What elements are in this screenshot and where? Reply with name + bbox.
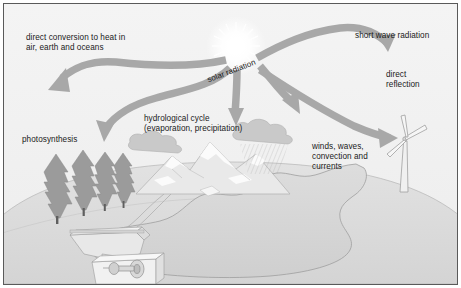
label-photosynthesis: photosynthesis — [22, 135, 77, 145]
diagram-canvas: direct conversion to heat in air, earth … — [0, 0, 461, 288]
label-hydrological-cycle: hydrological cycle (evaporation, precipi… — [144, 114, 242, 134]
label-direct-reflection: direct reflection — [386, 70, 420, 90]
arrow-up-evaporation — [235, 70, 237, 114]
diagram-frame: direct conversion to heat in air, earth … — [3, 3, 458, 285]
rainfall-hatching — [240, 144, 288, 174]
label-winds-waves: winds, waves, convection and currents — [312, 142, 368, 173]
label-short-wave-radiation: short wave radiation — [355, 31, 429, 41]
label-direct-conversion: direct conversion to heat in air, earth … — [26, 33, 125, 53]
